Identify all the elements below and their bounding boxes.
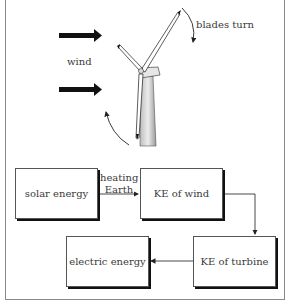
box-label: KE of turbine xyxy=(200,256,268,267)
wind-label: wind xyxy=(67,56,92,67)
ke-of-turbine-box: KE of turbine xyxy=(193,236,276,287)
electric-energy-box: electric energy xyxy=(66,236,149,287)
solar-energy-box: solar energy xyxy=(15,168,98,219)
box-label: solar energy xyxy=(25,188,88,199)
wind-arrow-icon xyxy=(59,29,102,42)
blades-turn-label: blades turn xyxy=(196,19,254,30)
wind-arrow-icon xyxy=(59,83,102,96)
box-label: KE of wind xyxy=(154,188,209,199)
blade-icon xyxy=(118,45,143,71)
rotation-arrow-icon xyxy=(182,8,194,42)
rotation-arrow-icon xyxy=(106,112,129,145)
heating-earth-label: heating Earth xyxy=(100,172,138,196)
flow-arrow-icon xyxy=(222,194,255,234)
ke-of-wind-box: KE of wind xyxy=(140,168,223,219)
box-label: electric energy xyxy=(69,256,146,267)
blade-icon xyxy=(141,12,180,72)
